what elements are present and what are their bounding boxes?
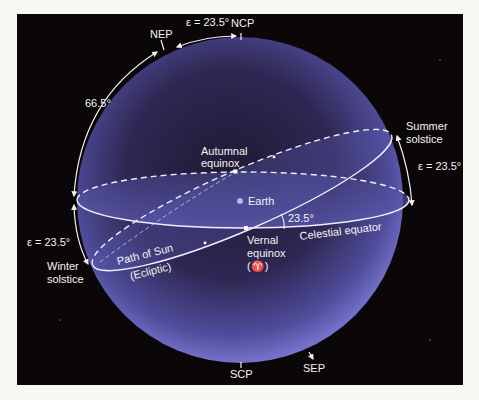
ecliptic-marker <box>273 156 276 159</box>
obliquity-left-label: ε = 23.5° <box>27 236 70 248</box>
summer-solstice-label-line2: solstice <box>406 133 443 145</box>
nep-tick <box>161 40 164 50</box>
vernal-equinox-label-line1: Vernal <box>247 234 278 246</box>
ecliptic-marker <box>204 242 207 245</box>
earth-label: Earth <box>248 195 274 207</box>
obliquity-top-label: ε = 23.5° <box>186 16 229 28</box>
winter-solstice-label-line1: Winter <box>47 260 79 272</box>
star <box>429 339 430 340</box>
earth-dot <box>237 198 243 204</box>
colatitude-label: 66.5° <box>85 97 111 109</box>
autumnal-equinox-label-line1: Autumnal <box>201 145 247 157</box>
ncp-label: NCP <box>231 17 254 29</box>
star <box>439 59 440 60</box>
nep-label: NEP <box>150 28 173 40</box>
obliquity-right-label: ε = 23.5° <box>418 160 461 172</box>
vernal-equinox-point <box>244 226 248 230</box>
scp-label: SCP <box>230 368 253 380</box>
vernal-equinox-label-line2: equinox <box>247 247 286 259</box>
vernal-equinox-symbol: (♈) <box>247 260 268 273</box>
tilt-angle-label: 23.5° <box>288 212 314 224</box>
sep-arrow <box>309 352 313 359</box>
celestial-sphere-diagram: ε = 23.5° NCP NEP 66.5° Summer solstice … <box>0 0 479 400</box>
summer-solstice-label-line1: Summer <box>406 120 448 132</box>
sep-label: SEP <box>303 362 325 374</box>
autumnal-equinox-label-line2: equinox <box>201 157 240 169</box>
winter-solstice-label-line2: solstice <box>47 273 84 285</box>
star <box>59 319 60 320</box>
autumnal-equinox-point <box>234 170 238 174</box>
